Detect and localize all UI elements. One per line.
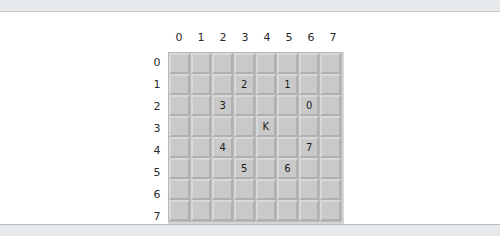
column-header-3: 3 [234, 30, 256, 46]
grid-cell-2-4[interactable] [256, 95, 277, 116]
grid-cell-4-7[interactable] [320, 137, 341, 158]
grid-cell-2-0[interactable] [169, 95, 190, 116]
column-header-0: 0 [168, 30, 190, 46]
grid-cell-7-4[interactable] [256, 200, 277, 221]
app-root: 01234567 01234567 2130K4756 [0, 0, 500, 236]
grid-cell-4-6[interactable]: 7 [299, 137, 320, 158]
grid-cell-6-1[interactable] [191, 179, 212, 200]
grid-cell-1-4[interactable] [256, 74, 277, 95]
column-header-4: 4 [256, 30, 278, 46]
grid-cell-5-7[interactable] [320, 158, 341, 179]
row-header-column: 01234567 [148, 52, 166, 228]
grid-cell-3-6[interactable] [299, 116, 320, 137]
row-header-7: 7 [148, 206, 166, 228]
grid-row-5: 56 [169, 158, 342, 179]
grid-cell-3-1[interactable] [191, 116, 212, 137]
grid-cell-5-6[interactable] [299, 158, 320, 179]
grid-row-2: 30 [169, 95, 342, 116]
grid-cell-4-1[interactable] [191, 137, 212, 158]
grid-cell-5-2[interactable] [212, 158, 233, 179]
column-header-row: 01234567 [168, 30, 344, 46]
column-header-5: 5 [278, 30, 300, 46]
grid-cell-2-2[interactable]: 3 [212, 95, 233, 116]
grid-cell-3-7[interactable] [320, 116, 341, 137]
row-header-4: 4 [148, 140, 166, 162]
grid-cell-3-2[interactable] [212, 116, 233, 137]
grid-cell-7-0[interactable] [169, 200, 190, 221]
grid-cell-6-7[interactable] [320, 179, 341, 200]
column-header-2: 2 [212, 30, 234, 46]
grid-cell-5-5[interactable]: 6 [277, 158, 298, 179]
grid-cell-2-6[interactable]: 0 [299, 95, 320, 116]
grid-cell-1-7[interactable] [320, 74, 341, 95]
grid-cell-0-2[interactable] [212, 53, 233, 74]
grid-cell-7-3[interactable] [234, 200, 255, 221]
row-header-5: 5 [148, 162, 166, 184]
grid-cell-2-3[interactable] [234, 95, 255, 116]
grid-cell-6-0[interactable] [169, 179, 190, 200]
grid-cell-4-0[interactable] [169, 137, 190, 158]
minesweeper-grid[interactable]: 2130K4756 [168, 52, 344, 224]
grid-cell-2-1[interactable] [191, 95, 212, 116]
grid-row-0 [169, 53, 342, 74]
grid-cell-7-2[interactable] [212, 200, 233, 221]
grid-cell-4-2[interactable]: 4 [212, 137, 233, 158]
grid-cell-1-1[interactable] [191, 74, 212, 95]
grid-cell-3-4[interactable]: K [256, 116, 277, 137]
grid-cell-7-6[interactable] [299, 200, 320, 221]
grid-cell-0-7[interactable] [320, 53, 341, 74]
column-header-1: 1 [190, 30, 212, 46]
grid-cell-3-5[interactable] [277, 116, 298, 137]
grid-cell-7-1[interactable] [191, 200, 212, 221]
grid-cell-5-4[interactable] [256, 158, 277, 179]
grid-cell-1-0[interactable] [169, 74, 190, 95]
grid-cell-4-3[interactable] [234, 137, 255, 158]
grid-cell-1-2[interactable] [212, 74, 233, 95]
grid-row-7 [169, 200, 342, 221]
grid-cell-5-3[interactable]: 5 [234, 158, 255, 179]
grid-cell-1-6[interactable] [299, 74, 320, 95]
grid-cell-3-3[interactable] [234, 116, 255, 137]
grid-cell-6-6[interactable] [299, 179, 320, 200]
grid-cell-5-1[interactable] [191, 158, 212, 179]
grid-cell-1-5[interactable]: 1 [277, 74, 298, 95]
grid-cell-0-0[interactable] [169, 53, 190, 74]
grid-cell-6-3[interactable] [234, 179, 255, 200]
grid-cell-4-5[interactable] [277, 137, 298, 158]
grid-row-6 [169, 179, 342, 200]
grid-cell-7-7[interactable] [320, 200, 341, 221]
grid-cell-3-0[interactable] [169, 116, 190, 137]
row-header-6: 6 [148, 184, 166, 206]
grid-row-4: 47 [169, 137, 342, 158]
grid-cell-4-4[interactable] [256, 137, 277, 158]
grid-cell-1-3[interactable]: 2 [234, 74, 255, 95]
grid-cell-6-5[interactable] [277, 179, 298, 200]
grid-cell-0-4[interactable] [256, 53, 277, 74]
grid-cell-5-0[interactable] [169, 158, 190, 179]
grid-cell-7-5[interactable] [277, 200, 298, 221]
board-area: 01234567 01234567 2130K4756 [148, 30, 348, 210]
row-header-2: 2 [148, 96, 166, 118]
row-header-0: 0 [148, 52, 166, 74]
grid-cell-0-1[interactable] [191, 53, 212, 74]
column-header-6: 6 [300, 30, 322, 46]
grid-cell-2-7[interactable] [320, 95, 341, 116]
grid-cell-0-5[interactable] [277, 53, 298, 74]
grid-cell-2-5[interactable] [277, 95, 298, 116]
grid-cell-6-4[interactable] [256, 179, 277, 200]
row-header-1: 1 [148, 74, 166, 96]
grid-cell-0-6[interactable] [299, 53, 320, 74]
column-header-7: 7 [322, 30, 344, 46]
content-card: 01234567 01234567 2130K4756 [0, 11, 500, 225]
row-header-3: 3 [148, 118, 166, 140]
grid-row-1: 21 [169, 74, 342, 95]
grid-row-3: K [169, 116, 342, 137]
grid-cell-0-3[interactable] [234, 53, 255, 74]
grid-cell-6-2[interactable] [212, 179, 233, 200]
